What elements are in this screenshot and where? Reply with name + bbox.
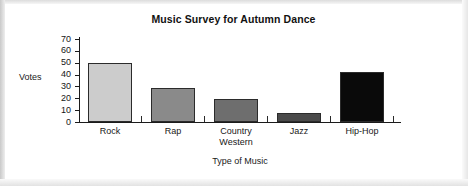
x-axis-tick: [393, 116, 394, 122]
bar-jazz: [277, 113, 321, 122]
y-axis-tick-label: 40: [49, 70, 71, 79]
category-label-line: Rock: [79, 126, 141, 137]
x-axis-title: Type of Music: [79, 156, 401, 166]
y-axis-tick-label: 70: [49, 35, 71, 44]
y-axis-tick: [75, 110, 80, 111]
category-label-line: Rap: [142, 126, 204, 137]
category-label-line: Hip-Hop: [331, 126, 393, 137]
bar-hip-hop: [340, 72, 384, 122]
scanned-page-frame: Music Survey for Autumn Dance Votes 7060…: [0, 0, 468, 186]
y-axis-tick: [75, 39, 80, 40]
x-axis-tick: [330, 116, 331, 122]
y-axis-tick-label: 0: [49, 118, 71, 127]
page-edge-right: [462, 0, 468, 186]
y-axis-tick-label: 30: [49, 82, 71, 91]
y-axis-tick-label: 60: [49, 46, 71, 55]
y-axis-tick: [75, 98, 80, 99]
y-axis-title: Votes: [19, 72, 53, 82]
category-label-hip-hop: Hip-Hop: [331, 126, 393, 137]
category-label-jazz: Jazz: [268, 126, 330, 137]
y-axis-tick: [75, 51, 80, 52]
chart-figure: Music Survey for Autumn Dance Votes 7060…: [5, 4, 462, 179]
bar-rock: [88, 63, 132, 122]
bar-country-western: [214, 99, 258, 122]
category-label-country-western: CountryWestern: [205, 126, 267, 148]
category-label-line: Western: [205, 137, 267, 148]
y-axis-tick: [75, 86, 80, 87]
y-axis-tick: [75, 75, 80, 76]
page-edge-bottom: [0, 179, 468, 186]
category-label-line: Country: [205, 126, 267, 137]
x-axis-line: [79, 122, 401, 123]
category-label-line: Jazz: [268, 126, 330, 137]
y-axis-tick-label: 10: [49, 106, 71, 115]
category-label-rap: Rap: [142, 126, 204, 137]
y-axis-tick: [75, 63, 80, 64]
y-axis-tick: [75, 122, 80, 123]
y-axis-tick-label: 20: [49, 94, 71, 103]
plot-area: Votes 706050403020100 RockRapCountryWest…: [5, 4, 462, 179]
x-axis-tick: [267, 116, 268, 122]
x-axis-tick: [141, 116, 142, 122]
category-label-rock: Rock: [79, 126, 141, 137]
x-axis-tick: [204, 116, 205, 122]
y-axis-tick-label: 50: [49, 58, 71, 67]
bar-rap: [151, 88, 195, 122]
